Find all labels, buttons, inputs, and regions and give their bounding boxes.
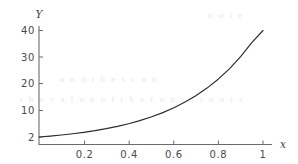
x-axis-label: x xyxy=(280,138,286,150)
y-tick-label-20: 20 xyxy=(21,78,35,89)
y-tick-label-40: 40 xyxy=(21,25,35,36)
y-tick-label-30: 30 xyxy=(21,52,35,63)
y-tick-label-10: 10 xyxy=(21,105,35,116)
x-tick-label-0-6: 0.6 xyxy=(165,149,183,160)
y-tick-label-2: 2 xyxy=(28,132,35,143)
data-curve xyxy=(39,31,263,138)
x-tick-label-0-8: 0.8 xyxy=(210,149,228,160)
x-axis-ticks xyxy=(85,141,263,145)
x-tick-label-0-2: 0.2 xyxy=(76,149,94,160)
exponential-plot: 40 30 20 10 2 0.2 0.4 0.6 0.8 1 Y x xyxy=(0,0,298,164)
y-axis-ticks xyxy=(39,31,43,138)
y-axis-label: Y xyxy=(36,8,44,20)
chart-screenshot: a n d t h e s c a n t h e v a l u e o f … xyxy=(0,0,298,164)
x-tick-label-1: 1 xyxy=(260,149,267,160)
x-tick-label-0-4: 0.4 xyxy=(120,149,138,160)
